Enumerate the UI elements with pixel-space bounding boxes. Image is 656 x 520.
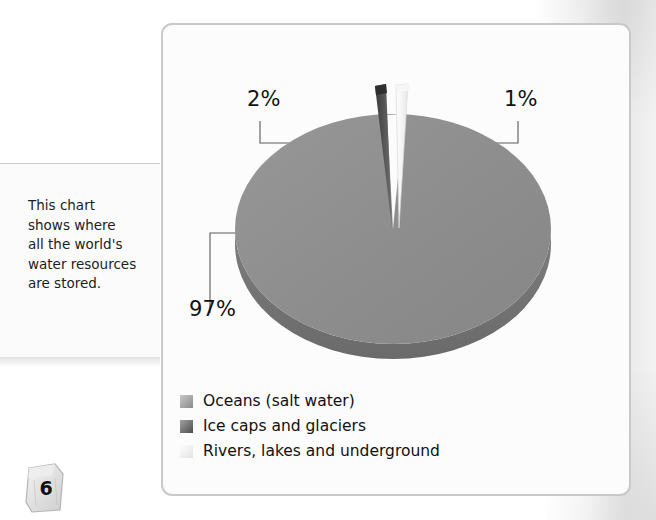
chart-card: 2% 1% 97% Oceans (salt water) Ice caps a… [161,23,631,496]
pie-slice-oceans[interactable] [235,114,551,344]
page-number-label: 6 [22,462,68,514]
pie-chart: 2% 1% 97% Oceans (salt water) Ice caps a… [163,25,633,498]
page-number-block: 6 [22,462,68,514]
legend-swatch-ice-caps [180,420,193,433]
pie-label-1-percent: 1% [504,87,538,111]
legend-swatch-rivers-lakes [180,445,193,458]
legend-label-ice-caps: Ice caps and glaciers [203,419,366,435]
caption-panel: This chart shows where all the world's w… [0,163,160,357]
pie-label-97-percent: 97% [189,297,236,321]
legend-item-ice-caps[interactable]: Ice caps and glaciers [180,414,610,439]
legend-item-rivers-lakes[interactable]: Rivers, lakes and underground [180,439,610,464]
caption-text: This chart shows where all the world's w… [28,196,153,294]
legend-label-rivers-lakes: Rivers, lakes and underground [203,444,440,460]
page-root: This chart shows where all the world's w… [0,0,656,520]
pie-label-2-percent: 2% [247,87,281,111]
legend-item-oceans[interactable]: Oceans (salt water) [180,389,610,414]
chart-legend: Oceans (salt water) Ice caps and glacier… [180,389,610,464]
legend-label-oceans: Oceans (salt water) [203,394,355,410]
legend-swatch-oceans [180,395,193,408]
